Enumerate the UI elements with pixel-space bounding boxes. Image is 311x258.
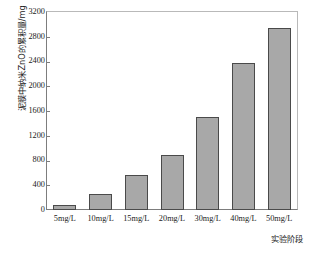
bar: [268, 28, 291, 210]
x-axis-title: 实验阶段: [271, 232, 303, 244]
y-tick-label: 800: [5, 156, 45, 164]
y-tick-label: 1600: [5, 107, 45, 115]
bar: [53, 205, 76, 210]
x-tick-label: 50mg/L: [257, 214, 301, 223]
y-tick-label: 2000: [5, 82, 45, 90]
bar: [125, 175, 148, 210]
y-tick-label: 0: [5, 206, 45, 214]
y-tick-label: 1200: [5, 132, 45, 140]
bars-container: [47, 12, 297, 210]
bar: [89, 194, 112, 210]
bar: [196, 117, 219, 210]
y-tick-label: 3200: [5, 8, 45, 16]
y-tick-label: 400: [5, 181, 45, 189]
bar-chart: 泥膜中纳米ZnO的累积量/mg 040080012001600200024002…: [0, 0, 311, 258]
y-tick-label: 2800: [5, 33, 45, 41]
bar: [232, 63, 255, 210]
bar: [161, 155, 184, 210]
y-tick-label: 2400: [5, 57, 45, 65]
